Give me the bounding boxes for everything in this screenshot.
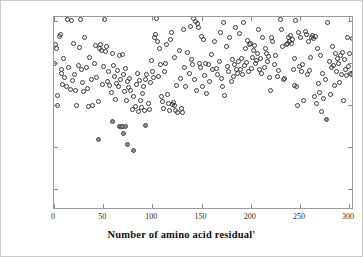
data-point-filled-circles: [125, 142, 130, 147]
data-point-open-circles: [54, 46, 59, 51]
data-point-open-circles: [92, 61, 97, 66]
x-tick-mark: [251, 204, 252, 208]
data-point-open-circles: [87, 55, 92, 60]
data-point-open-circles: [77, 45, 82, 50]
data-point-open-circles: [317, 90, 322, 95]
x-tick-mark: [103, 17, 104, 21]
data-point-filled-circles: [143, 123, 148, 128]
data-point-open-circles: [207, 79, 212, 84]
data-point-open-circles: [188, 24, 193, 29]
data-point-open-circles: [177, 48, 182, 53]
data-point-open-circles: [168, 37, 173, 42]
data-point-open-circles: [289, 41, 294, 46]
data-point-open-circles: [240, 72, 245, 77]
data-point-open-circles: [227, 35, 232, 40]
x-tick-label: 200: [244, 212, 256, 221]
data-point-open-circles: [73, 88, 78, 93]
data-point-open-circles: [98, 42, 103, 47]
data-point-open-circles: [123, 66, 128, 71]
data-point-open-circles: [244, 60, 249, 65]
data-point-filled-circles: [96, 137, 101, 142]
data-point-open-circles: [275, 74, 280, 79]
data-point-open-circles: [90, 103, 95, 108]
data-point-open-circles: [124, 98, 129, 103]
data-point-open-circles: [340, 50, 345, 55]
data-point-open-circles: [270, 39, 275, 44]
data-point-open-circles: [84, 65, 89, 70]
data-point-open-circles: [158, 62, 163, 67]
data-point-open-circles: [255, 51, 260, 56]
data-point-open-circles: [148, 80, 153, 85]
data-point-open-circles: [101, 64, 106, 69]
data-point-open-circles: [149, 58, 154, 63]
data-point-open-circles: [164, 42, 169, 47]
data-point-open-circles: [161, 106, 166, 111]
data-point-open-circles: [221, 20, 226, 25]
data-point-open-circles: [147, 107, 152, 112]
data-point-open-circles: [316, 81, 321, 86]
data-point-open-circles: [241, 20, 246, 25]
data-point-filled-circles: [131, 148, 136, 153]
data-point-open-circles: [307, 68, 312, 73]
data-point-open-circles: [115, 68, 120, 73]
data-point-open-circles: [321, 96, 326, 101]
data-point-open-circles: [233, 25, 238, 30]
data-point-open-circles: [301, 98, 306, 103]
data-point-open-circles: [249, 66, 254, 71]
data-point-open-circles: [181, 27, 186, 32]
data-point-open-circles: [153, 32, 158, 37]
data-points-layer: [54, 17, 352, 208]
data-point-open-circles: [336, 61, 341, 66]
y-tick-mark: [54, 21, 58, 22]
y-tick-mark: [54, 189, 58, 190]
data-point-open-circles: [196, 25, 201, 30]
data-point-open-circles: [66, 65, 71, 70]
data-point-open-circles: [198, 65, 203, 70]
data-point-open-circles: [136, 109, 141, 114]
data-point-open-circles: [308, 55, 313, 60]
x-tick-label: 150: [195, 212, 207, 221]
data-point-open-circles: [137, 78, 142, 83]
data-point-open-circles: [112, 74, 117, 79]
data-point-open-circles: [226, 69, 231, 74]
data-point-open-circles: [209, 52, 214, 57]
data-point-open-circles: [217, 59, 222, 64]
data-point-open-circles: [201, 37, 206, 42]
data-point-open-circles: [160, 99, 165, 104]
data-point-open-circles: [290, 37, 295, 42]
data-point-open-circles: [218, 30, 223, 35]
data-point-open-circles: [320, 71, 325, 76]
x-tick-label: 300: [342, 212, 354, 221]
data-point-open-circles: [78, 17, 83, 22]
data-point-open-circles: [293, 18, 298, 23]
data-point-open-circles: [106, 69, 111, 74]
data-point-open-circles: [122, 89, 127, 94]
data-point-open-circles: [131, 94, 136, 99]
data-point-open-circles: [185, 50, 190, 55]
data-point-open-circles: [109, 90, 114, 95]
data-point-open-circles: [282, 76, 287, 81]
data-point-open-circles: [167, 108, 172, 113]
data-point-open-circles: [74, 103, 79, 108]
data-point-open-circles: [104, 44, 109, 49]
y-tick-mark: [348, 189, 352, 190]
data-point-open-circles: [138, 98, 143, 103]
data-point-filled-circles: [110, 119, 115, 124]
data-point-open-circles: [260, 35, 265, 40]
data-point-open-circles: [113, 97, 118, 102]
x-tick-mark: [349, 204, 350, 208]
data-point-open-circles: [140, 91, 145, 96]
data-point-open-circles: [313, 34, 318, 39]
data-point-open-circles: [256, 27, 261, 32]
data-point-open-circles: [341, 98, 346, 103]
data-point-open-circles: [323, 77, 328, 82]
data-point-open-circles: [295, 103, 300, 108]
data-point-open-circles: [291, 67, 296, 72]
data-point-open-circles: [298, 35, 303, 40]
y-tick-mark: [348, 105, 352, 106]
data-point-open-circles: [155, 39, 160, 44]
data-point-open-circles: [299, 69, 304, 74]
data-point-open-circles: [116, 84, 121, 89]
data-point-open-circles: [214, 66, 219, 71]
data-point-open-circles: [220, 84, 225, 89]
